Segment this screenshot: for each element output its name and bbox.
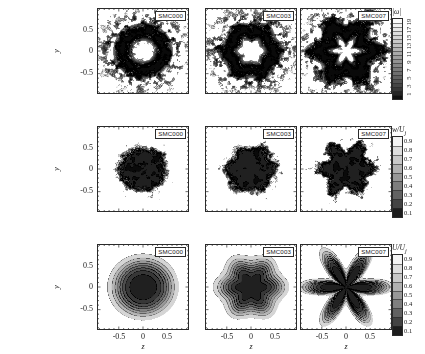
colorbar-level-line — [393, 55, 402, 56]
colorbar-tick-labels: 0.90.80.70.60.50.40.30.20.1 — [404, 136, 425, 218]
plot-panel[interactable]: SMC007 -0.5 0 0.5 z — [300, 244, 392, 330]
colorbar-tick-label: 0.3 — [404, 190, 412, 197]
colorbar-tick-labels: 191715131197531 — [404, 18, 425, 100]
colorbar-level-line — [393, 51, 402, 52]
colorbar-level-line — [393, 208, 402, 209]
colorbar-tick-label: 0.2 — [404, 199, 412, 206]
colorbar-gradient — [392, 136, 403, 218]
colorbar-level-line — [393, 299, 402, 300]
colorbar-tick-label: 0.6 — [404, 164, 412, 171]
colorbar-segment — [393, 255, 402, 264]
colorbar-level-line — [393, 83, 402, 84]
plot-panel[interactable]: SMC003 — [205, 8, 297, 94]
colorbar-vorticity: |ω| 191715131197531 — [392, 18, 425, 114]
plot-panel[interactable]: SMC007 — [300, 8, 392, 94]
colorbar-level-line — [393, 173, 402, 174]
y-tick-labels: 0.5 0 -0.5 — [71, 126, 95, 212]
colorbar-level-line — [393, 67, 402, 68]
colorbar-segment — [393, 326, 402, 335]
colorbar-segment — [393, 173, 402, 182]
plot-axes: SMC007 — [300, 8, 392, 94]
figure-row-axial-velocity-fluct: SMC000 0.5 0 -0.5 y SMC003 SMC007 — [0, 118, 425, 236]
colorbar-tick-label: 0.2 — [404, 317, 412, 324]
colorbar-title-text: U/U — [392, 243, 405, 252]
colorbar-level-line — [393, 146, 402, 147]
x-axis-label: z — [141, 342, 144, 351]
colorbar-segment — [393, 190, 402, 199]
plot-axes: SMC003 — [205, 126, 297, 212]
colorbar-level-line — [393, 47, 402, 48]
colorbar-tick-label: 0.5 — [404, 291, 412, 298]
panel-case-label: SMC007 — [358, 129, 389, 139]
colorbar-tick-label: 0.7 — [404, 273, 412, 280]
plot-axes: SMC007 — [300, 244, 392, 330]
colorbar-tick-label: 0.6 — [404, 282, 412, 289]
contour-canvas — [98, 245, 188, 329]
panel-case-label: SMC000 — [155, 129, 186, 139]
colorbar-segment — [393, 137, 402, 146]
colorbar-tick-label: 0.4 — [404, 181, 412, 188]
colorbar-segment — [393, 181, 402, 190]
colorbar-level-line — [393, 35, 402, 36]
colorbar-tick-label: 7 — [405, 68, 412, 71]
colorbar-title-subscript: j — [405, 247, 407, 254]
contour-canvas — [301, 9, 391, 93]
colorbar-axial-velocity-fluct: w/Uj 0.90.80.70.60.50.40.30.20.1 — [392, 136, 425, 232]
colorbar-segment — [393, 199, 402, 208]
colorbar-tick-label: 3 — [405, 84, 412, 87]
colorbar-level-line — [393, 79, 402, 80]
colorbar-level-line — [393, 273, 402, 274]
y-axis-label: y — [51, 167, 61, 171]
panel-case-label: SMC007 — [358, 247, 389, 257]
colorbar-tick-label: 11 — [405, 51, 412, 57]
colorbar-segment — [393, 164, 402, 173]
colorbar-level-line — [393, 91, 402, 92]
colorbar-level-line — [393, 87, 402, 88]
colorbar-title: U/Uj — [392, 243, 407, 254]
colorbar-level-line — [393, 63, 402, 64]
x-axis-label: z — [249, 342, 252, 351]
colorbar-level-line — [393, 190, 402, 191]
plot-panel[interactable]: SMC000 0.5 0 -0.5 y — [97, 8, 189, 94]
colorbar-tick-label: 19 — [405, 19, 412, 26]
colorbar-level-line — [393, 164, 402, 165]
plot-panel[interactable]: SMC003 -0.5 0 0.5 z — [205, 244, 297, 330]
colorbar-segment — [393, 208, 402, 217]
plot-panel[interactable]: SMC000 0.5 0 -0.5 y -0.5 0 0.5 z — [97, 244, 189, 330]
plot-panel[interactable]: SMC000 0.5 0 -0.5 y — [97, 126, 189, 212]
y-tick-labels: 0.5 0 -0.5 — [71, 8, 95, 94]
colorbar-segment — [393, 146, 402, 155]
colorbar-segment — [393, 155, 402, 164]
plot-axes: SMC003 — [205, 244, 297, 330]
plot-panel[interactable]: SMC007 — [300, 126, 392, 212]
contour-canvas — [206, 245, 296, 329]
panel-case-label: SMC003 — [263, 247, 294, 257]
colorbar-segment — [393, 308, 402, 317]
colorbar-gradient — [392, 254, 403, 336]
colorbar-tick-label: 0.4 — [404, 299, 412, 306]
plot-axes: SMC000 — [97, 126, 189, 212]
contour-canvas — [206, 9, 296, 93]
colorbar-level-line — [393, 31, 402, 32]
colorbar-level-line — [393, 95, 402, 96]
panel-case-label: SMC007 — [358, 11, 389, 21]
colorbar-tick-label: 0.9 — [404, 137, 412, 144]
colorbar-level-line — [393, 291, 402, 292]
plot-axes: SMC007 — [300, 126, 392, 212]
colorbar-tick-label: 17 — [405, 27, 412, 34]
plot-axes: SMC003 — [205, 8, 297, 94]
colorbar-level-line — [393, 39, 402, 40]
colorbar-tick-label: 15 — [405, 35, 412, 42]
colorbar-level-line — [393, 71, 402, 72]
colorbar-segment — [393, 299, 402, 308]
colorbar-tick-label: 0.9 — [404, 255, 412, 262]
colorbar-level-line — [393, 43, 402, 44]
colorbar-level-line — [393, 59, 402, 60]
colorbar-level-line — [393, 75, 402, 76]
colorbar-tick-label: 0.8 — [404, 146, 412, 153]
contour-canvas — [301, 127, 391, 211]
plot-panel[interactable]: SMC003 — [205, 126, 297, 212]
panel-case-label: SMC003 — [263, 11, 294, 21]
colorbar-tick-label: 0.1 — [404, 208, 412, 215]
y-axis-label: y — [51, 49, 61, 53]
